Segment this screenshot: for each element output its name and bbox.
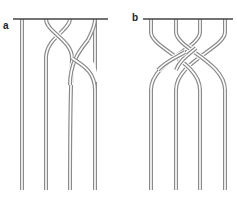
braid-figure: a b — [0, 0, 237, 199]
braid-diagram-svg — [0, 0, 237, 199]
bottom-fade — [0, 150, 237, 199]
